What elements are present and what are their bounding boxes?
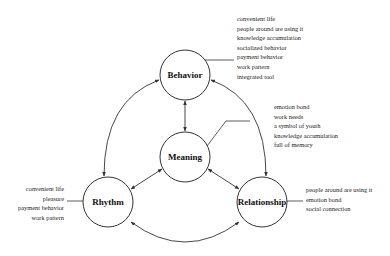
rhythm-note-item: pleasure [18, 194, 64, 204]
meaning-note-item: emotion bond [274, 102, 338, 112]
behavior-notes: convenient life people around are using … [237, 14, 303, 81]
edge-meaning-rhythm [131, 169, 162, 189]
behavior-note-item: socialized behavior [237, 43, 303, 53]
meaning-note-item: knowledge accumulation [274, 131, 338, 141]
relationship-note-item: people around are using it [306, 185, 372, 195]
meaning-note-item: a symbol of youth [274, 121, 338, 131]
rhythm-notes: convenient life pleasure payment behavio… [18, 184, 64, 222]
behavior-label: Behavior [168, 70, 203, 80]
meaning-note-connector [207, 121, 250, 146]
meaning-notes: emotion bond work needs a symbol of yout… [274, 102, 338, 150]
relationship-note-item: emotion bond [306, 195, 372, 205]
behavior-note-item: convenient life [237, 14, 303, 24]
relationship-note-item: social connection [306, 204, 372, 214]
edge-behavior-relationship [211, 80, 266, 176]
rhythm-label: Rhythm [92, 197, 124, 207]
edge-rhythm-relationship [131, 222, 239, 242]
rhythm-note-item: payment behavior [18, 203, 64, 213]
behavior-note-item: knowledge accumulation [237, 33, 303, 43]
behavior-note-item: integrated tool [237, 72, 303, 82]
meaning-label: Meaning [168, 152, 203, 162]
edge-behavior-rhythm [104, 80, 159, 176]
meaning-note-item: work needs [274, 112, 338, 122]
behavior-note-item: work pattern [237, 62, 303, 72]
rhythm-note-item: convenient life [18, 184, 64, 194]
relationship-notes: people around are using it emotion bond … [306, 185, 372, 214]
behavior-note-item: payment behavior [237, 52, 303, 62]
edge-meaning-relationship [208, 169, 239, 189]
meaning-note-item: full of memory [274, 140, 338, 150]
rhythm-note-item: work pattern [18, 213, 64, 223]
relationship-label: Relationship [238, 197, 287, 207]
behavior-note-item: people around are using it [237, 24, 303, 34]
